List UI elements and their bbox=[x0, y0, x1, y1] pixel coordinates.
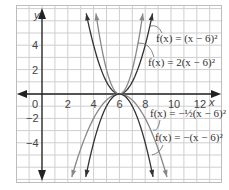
x-tick-4: 4 bbox=[91, 98, 97, 110]
y-tick-4: 4 bbox=[32, 39, 38, 51]
curve-arrow-icon bbox=[163, 170, 168, 177]
x-axis-left-arrow-icon bbox=[17, 90, 27, 98]
y-tick--4: −4 bbox=[26, 137, 39, 149]
y-tick-2: 2 bbox=[32, 64, 38, 76]
curve-arrow-icon bbox=[71, 170, 76, 177]
equation-label-4: f(x) = −(x − 6)² bbox=[155, 131, 223, 144]
graph: 024681012 42−2−4 y x f(x) = (x − 6)² f(x… bbox=[0, 0, 229, 190]
curve-arrow-icon bbox=[95, 13, 100, 20]
x-tick-2: 2 bbox=[65, 98, 71, 110]
equation-label-3: f(x) = −½(x − 6)² bbox=[150, 107, 227, 120]
x-tick-8: 8 bbox=[142, 98, 148, 110]
equation-label-2: f(x) = 2(x − 6)² bbox=[148, 56, 216, 69]
x-tick-6: 6 bbox=[116, 98, 122, 110]
equation-label-1: f(x) = (x − 6)² bbox=[156, 32, 218, 45]
curve-arrow-icon bbox=[139, 13, 144, 20]
y-tick--2: −2 bbox=[26, 112, 39, 124]
x-tick-0: 0 bbox=[32, 98, 38, 110]
